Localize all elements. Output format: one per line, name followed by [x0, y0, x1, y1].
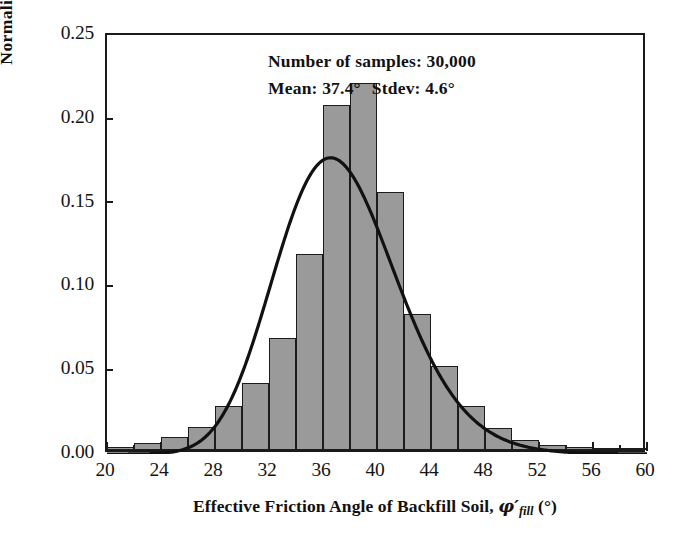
y-axis-tick-label: 0.25 [61, 22, 94, 44]
statistics-annotation: Number of samples: 30,000 Mean: 37.4°Std… [268, 48, 476, 102]
annotation-stdev: Stdev: 4.6° [372, 78, 455, 98]
y-axis-tick-label: 0.00 [61, 441, 94, 463]
x-axis-tick-label: 44 [419, 459, 438, 481]
x-axis-unit: (°) [538, 496, 557, 516]
x-axis-tick-label: 20 [95, 459, 114, 481]
y-axis-tick-label: 0.05 [61, 357, 94, 379]
y-axis-tick-label: 0.20 [61, 106, 94, 128]
chart-figure: 0.000.050.100.150.200.25 Normalized Freq… [0, 0, 687, 542]
y-axis-title: Normalized Frequency [0, 0, 17, 105]
annotation-mean-stdev: Mean: 37.4°Stdev: 4.6° [268, 75, 476, 102]
x-axis-title: Effective Friction Angle of Backfill Soi… [105, 496, 645, 519]
curve-path [107, 158, 647, 454]
phi-prime-symbol: φ′ [498, 496, 519, 516]
x-axis-tick-label: 24 [149, 459, 168, 481]
x-axis-tick-label: 48 [473, 459, 492, 481]
x-axis-tick-label: 36 [311, 459, 330, 481]
x-axis-tick-label: 28 [203, 459, 222, 481]
x-axis-tick-label: 60 [635, 459, 654, 481]
fill-subscript: fill [519, 504, 534, 518]
x-axis-tick-label: 40 [365, 459, 384, 481]
y-axis-tick-label: 0.10 [61, 273, 94, 295]
annotation-mean: Mean: 37.4° [268, 78, 361, 98]
x-axis-tick-label: 52 [527, 459, 546, 481]
x-axis-title-main: Effective Friction Angle of Backfill Soi… [193, 496, 494, 516]
x-axis-tick-label: 32 [257, 459, 276, 481]
y-axis-tick-label: 0.15 [61, 190, 94, 212]
annotation-sample-count: Number of samples: 30,000 [268, 48, 476, 75]
x-axis-tick-label: 56 [581, 459, 600, 481]
